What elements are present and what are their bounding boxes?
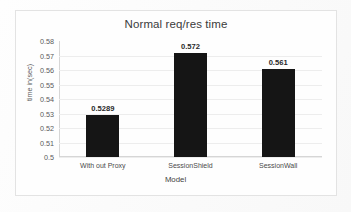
bar[interactable] [86, 115, 119, 157]
x-axis-category-label: With out Proxy [80, 162, 126, 169]
x-axis-category-label: SessionWall [259, 162, 297, 169]
y-axis-tick-label: 0.58 [22, 37, 54, 46]
bar-value-label: 0.572 [181, 42, 200, 51]
y-axis-tick-label: 0.52 [22, 124, 54, 133]
bar-value-label: 0.5289 [91, 104, 114, 113]
bar-value-label: 0.561 [269, 58, 288, 67]
bar[interactable] [262, 69, 295, 157]
y-axis-tick-label: 0.5 [22, 153, 54, 162]
x-axis-title: Model [0, 175, 351, 184]
chart-title: Normal req/res time [16, 18, 336, 30]
x-axis-category-label: SessionShield [168, 162, 212, 169]
y-axis-tick-label: 0.51 [22, 138, 54, 147]
gridline [59, 157, 322, 158]
bar[interactable] [174, 53, 207, 157]
y-axis-title: time in(sec) [25, 48, 34, 118]
